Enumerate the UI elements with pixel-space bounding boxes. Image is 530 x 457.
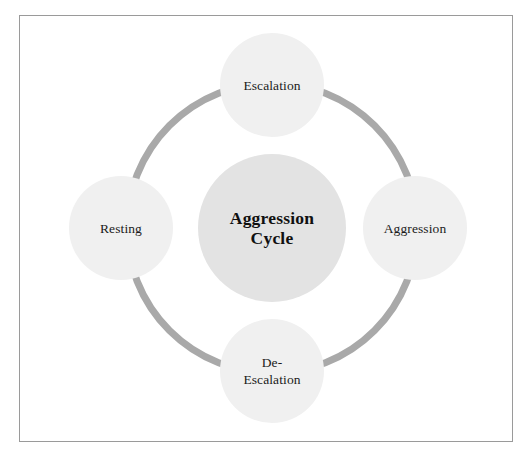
figure-frame: Escalation Aggression De- Escalation Res… bbox=[19, 15, 513, 442]
node-escalation-label: Escalation bbox=[243, 77, 300, 94]
node-resting[interactable]: Resting bbox=[69, 176, 173, 280]
node-escalation[interactable]: Escalation bbox=[220, 33, 324, 137]
node-aggression-label: Aggression bbox=[384, 220, 447, 237]
cycle-diagram: Escalation Aggression De- Escalation Res… bbox=[20, 16, 514, 443]
center-hub-title: Aggression Cycle bbox=[230, 208, 314, 248]
node-center-hub[interactable]: Aggression Cycle bbox=[198, 154, 346, 302]
node-resting-label: Resting bbox=[100, 220, 142, 237]
node-aggression[interactable]: Aggression bbox=[363, 176, 467, 280]
node-de-escalation[interactable]: De- Escalation bbox=[220, 319, 324, 423]
node-de-escalation-label: De- Escalation bbox=[243, 354, 300, 388]
